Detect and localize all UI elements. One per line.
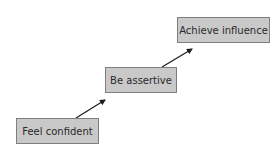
diagram-canvas: Feel confident Be assertive Achieve infl… [0,0,280,149]
step-be-assertive: Be assertive [105,67,177,93]
step-achieve-influence: Achieve influence [177,17,270,43]
arrow-icon [76,100,105,118]
step-label: Be assertive [110,75,172,86]
step-label: Feel confident [22,126,92,137]
step-label: Achieve influence [179,25,268,36]
step-feel-confident: Feel confident [16,118,99,144]
arrow-icon [162,49,192,67]
